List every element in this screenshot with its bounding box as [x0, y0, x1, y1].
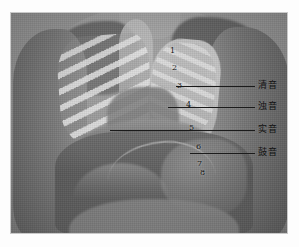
leader-line-gu-yin: [190, 153, 255, 154]
label-shi-yin[interactable]: 实音: [258, 124, 277, 134]
marker-1[interactable]: 1: [170, 47, 175, 55]
label-zhuo-yin[interactable]: 浊音: [258, 101, 277, 111]
label-gu-yin[interactable]: 鼓音: [258, 147, 277, 157]
anatomy-figure: 1 2 3 4 5 6 7 8 清音 浊音 实音 鼓音: [0, 0, 299, 247]
leader-line-shi-yin: [110, 130, 255, 131]
leader-line-qing-yin: [176, 86, 255, 87]
marker-8[interactable]: 8: [200, 169, 205, 177]
leader-line-zhuo-yin: [168, 107, 255, 108]
chest-photograph: [11, 13, 287, 233]
label-qing-yin[interactable]: 清音: [258, 80, 277, 90]
marker-2[interactable]: 2: [172, 64, 177, 72]
marker-6[interactable]: 6: [196, 143, 201, 151]
marker-7[interactable]: 7: [197, 160, 202, 168]
